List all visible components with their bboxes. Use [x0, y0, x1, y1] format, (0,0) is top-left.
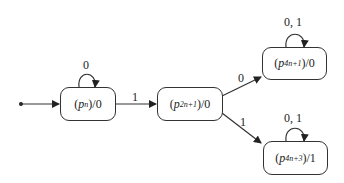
- state-output: )/0: [88, 97, 101, 112]
- state-subscript: 4n+3: [285, 154, 302, 163]
- state-output: )/1: [303, 151, 316, 166]
- label-self-loop-p4n3: 0, 1: [284, 112, 302, 124]
- state-p4n3: (p4n+3)/1: [263, 141, 328, 175]
- label-pn-p2n1: 1: [132, 91, 138, 103]
- label-self-loop-p4n1: 0, 1: [284, 16, 302, 28]
- label-p2n1-p4n1: 0: [238, 72, 244, 84]
- state-p2n1: (p2n+1)/0: [157, 87, 223, 121]
- state-p4n1: (p4n+1)/0: [262, 47, 327, 80]
- self-loop-p4n3: [286, 128, 304, 141]
- state-subscript: 4n+1: [284, 59, 301, 68]
- self-loop-pn: [79, 74, 95, 87]
- label-p2n1-p4n3: 1: [240, 116, 246, 128]
- state-subscript: 2n+1: [180, 100, 197, 109]
- state-pn: (pn)/0: [60, 87, 116, 121]
- label-self-loop-pn: 0: [83, 59, 89, 71]
- state-output: )/0: [302, 56, 315, 71]
- self-loop-p4n1: [286, 34, 304, 47]
- state-output: )/0: [197, 97, 210, 112]
